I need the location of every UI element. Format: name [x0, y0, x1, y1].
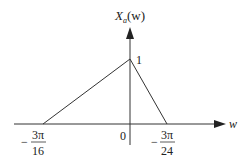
spectrum-diagram: Xa(w) 1 w 0 − 3π 16 − 3π 24 [0, 0, 248, 164]
left-tick-label: − 3π 16 [21, 128, 46, 158]
svg-text:−: − [21, 135, 28, 149]
svg-text:3π: 3π [161, 128, 173, 142]
svg-text:3π: 3π [32, 128, 44, 142]
origin-label: 0 [120, 129, 126, 143]
spectrum-curve [43, 59, 167, 124]
x-axis-label: w [229, 117, 237, 131]
y-axis-label: Xa(w) [114, 8, 145, 25]
y-axis-arrow-icon [126, 27, 134, 39]
svg-text:24: 24 [161, 144, 173, 158]
svg-text:−: − [151, 135, 158, 149]
svg-text:16: 16 [32, 144, 44, 158]
right-tick-label: − 3π 24 [151, 128, 175, 158]
x-axis-arrow-icon [214, 120, 226, 128]
peak-label: 1 [136, 53, 142, 67]
